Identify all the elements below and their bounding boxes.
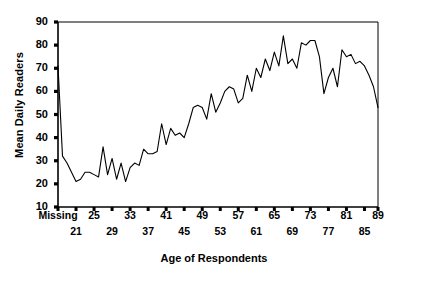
- x-tick-label: 45: [178, 226, 190, 237]
- x-tick-mark: [183, 207, 186, 211]
- y-tick-mark: [54, 182, 58, 185]
- y-tick-label: 40: [22, 132, 48, 143]
- x-tick-mark: [219, 207, 222, 211]
- data-series-line: [58, 36, 378, 182]
- x-tick-mark: [147, 207, 150, 211]
- x-tick-label: Missing: [38, 210, 77, 221]
- y-tick-label: 50: [22, 109, 48, 120]
- x-tick-label: 85: [359, 226, 371, 237]
- y-tick-label: 30: [22, 155, 48, 166]
- y-tick-label: 80: [22, 39, 48, 50]
- x-tick-label: 25: [88, 210, 100, 221]
- x-tick-label: 57: [232, 210, 244, 221]
- y-tick-label: 60: [22, 85, 48, 96]
- x-axis-title-text: Age of Respondents: [161, 252, 268, 264]
- x-tick-label: 41: [160, 210, 172, 221]
- y-tick-label: 20: [22, 178, 48, 189]
- y-tick-mark: [54, 136, 58, 139]
- plot-area: [0, 0, 428, 281]
- y-tick-mark: [54, 90, 58, 93]
- x-tick-label: 37: [142, 226, 154, 237]
- x-tick-label: 73: [305, 210, 317, 221]
- x-tick-label: 81: [341, 210, 353, 221]
- y-tick-mark: [54, 159, 58, 162]
- x-tick-label: 69: [287, 226, 299, 237]
- x-tick-label: 49: [196, 210, 208, 221]
- y-tick-mark: [54, 44, 58, 47]
- y-tick-label: 90: [22, 16, 48, 27]
- x-tick-label: 77: [323, 226, 335, 237]
- x-tick-label: 65: [268, 210, 280, 221]
- x-tick-label: 89: [372, 210, 384, 221]
- y-tick-mark: [54, 67, 58, 70]
- y-tick-mark: [54, 113, 58, 116]
- chart-figure: Mean Daily Readers 102030405060708090 Mi…: [0, 0, 428, 281]
- x-tick-label: 29: [106, 226, 118, 237]
- y-tick-label: 70: [22, 62, 48, 73]
- x-tick-label: 53: [214, 226, 226, 237]
- x-tick-label: 33: [124, 210, 136, 221]
- x-tick-label: 61: [250, 226, 262, 237]
- x-tick-mark: [327, 207, 330, 211]
- x-tick-mark: [255, 207, 258, 211]
- x-tick-label: 21: [70, 226, 82, 237]
- x-tick-mark: [111, 207, 114, 211]
- x-tick-mark: [291, 207, 294, 211]
- x-tick-mark: [363, 207, 366, 211]
- y-tick-mark: [54, 20, 58, 23]
- x-axis-title: Age of Respondents: [0, 252, 428, 264]
